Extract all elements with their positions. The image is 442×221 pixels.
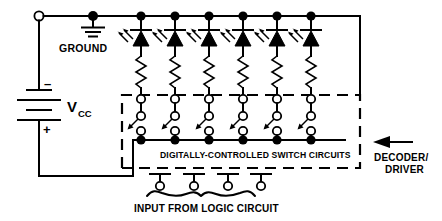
- switch-output-terminal-4: [239, 127, 247, 135]
- decoder-label-line1: DECODER/: [374, 152, 428, 163]
- switch-pivot-3: [205, 112, 213, 120]
- resistor-6: [306, 56, 316, 88]
- switch-arm-3: [196, 119, 207, 130]
- switch-pivot-5: [273, 112, 281, 120]
- switch-input-terminal-1: [137, 95, 145, 103]
- bottom-rail-node-4: [238, 135, 247, 144]
- battery-plus-sign: +: [43, 122, 51, 137]
- led-triangle-5: [269, 31, 285, 46]
- switch-arm-6: [298, 119, 309, 130]
- logic-input-terminal-3: [218, 174, 238, 190]
- switch-arm-4: [230, 119, 241, 130]
- circuit-schematic-svg: GROUND – + V CC: [0, 0, 442, 221]
- vcc-label: V: [67, 98, 77, 115]
- led-triangle-1: [133, 31, 149, 46]
- led-branch-2: [152, 11, 186, 144]
- switch-pivot-6: [307, 112, 315, 120]
- switch-input-terminal-4: [239, 95, 247, 103]
- switch-block-label: DIGITALLY-CONTROLLED SWITCH CIRCUITS: [160, 150, 351, 160]
- resistor-4: [238, 56, 248, 88]
- decoder-label-line2: DRIVER: [385, 164, 425, 175]
- logic-input-terminals: [150, 174, 271, 190]
- bottom-rail-node-6: [306, 135, 315, 144]
- ground-label: GROUND: [59, 42, 108, 54]
- switch-output-terminal-3: [205, 127, 213, 135]
- switch-arm-1: [128, 119, 139, 130]
- resistor-5: [272, 56, 282, 88]
- bottom-rail-node-5: [272, 135, 281, 144]
- led-branch-4: [220, 11, 254, 144]
- logic-input-terminal-2: [184, 174, 204, 190]
- switch-output-terminal-5: [273, 127, 281, 135]
- input-group-brace: [147, 191, 255, 196]
- switch-pivot-4: [239, 112, 247, 120]
- switch-pivot-1: [137, 112, 145, 120]
- switch-pivot-2: [171, 112, 179, 120]
- supply-top-terminal: [34, 11, 43, 20]
- vcc-subscript-label: CC: [78, 108, 92, 119]
- circuit-diagram: GROUND – + V CC: [0, 0, 442, 221]
- bottom-rail-node-1: [136, 135, 145, 144]
- battery-minus-sign: –: [44, 76, 51, 91]
- switch-input-terminal-3: [205, 95, 213, 103]
- resistor-2: [170, 56, 180, 88]
- switch-input-terminal-6: [307, 95, 315, 103]
- switch-arm-2: [162, 119, 173, 130]
- led-branch-5: [254, 11, 288, 144]
- switch-input-terminal-5: [273, 95, 281, 103]
- led-branch-3: [186, 11, 220, 144]
- decoder-arrow-icon: [373, 136, 412, 148]
- switch-output-terminal-1: [137, 127, 145, 135]
- switch-input-terminal-2: [171, 95, 179, 103]
- led-branch-6: [288, 11, 322, 144]
- resistor-3: [204, 56, 214, 88]
- switch-arm-5: [264, 119, 275, 130]
- led-triangle-3: [201, 31, 217, 46]
- switch-output-terminal-2: [171, 127, 179, 135]
- logic-input-terminal-4: [251, 174, 271, 190]
- switch-output-terminal-6: [307, 127, 315, 135]
- resistor-1: [136, 56, 146, 88]
- input-block-label: INPUT FROM LOGIC CIRCUIT: [134, 203, 279, 214]
- led-triangle-4: [235, 31, 251, 46]
- bottom-rail-node-3: [204, 135, 213, 144]
- bottom-rail-node-2: [170, 135, 179, 144]
- led-triangle-2: [167, 31, 183, 46]
- logic-input-terminal-1: [150, 174, 170, 190]
- led-triangle-6: [303, 31, 319, 46]
